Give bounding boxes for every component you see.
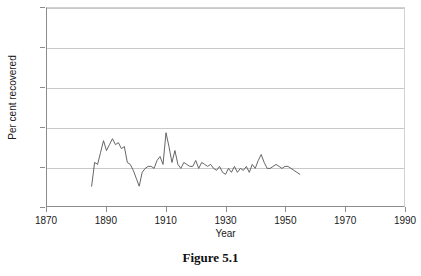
x-axis-title: Year [46,228,405,239]
y-tick-mark-80 [40,47,45,48]
y-tick-mark-40 [40,127,45,128]
series-line-percent-recovered [47,8,404,206]
x-tick-label-1990: 1990 [383,215,421,226]
y-tick-mark-20 [40,167,45,168]
x-tick-mark-1930 [226,207,227,212]
y-tick-mark-100 [40,7,45,8]
x-tick-mark-1890 [106,207,107,212]
x-tick-mark-1870 [46,207,47,212]
y-tick-mark-60 [40,87,45,88]
x-tick-label-1910: 1910 [144,215,188,226]
x-tick-mark-1970 [345,207,346,212]
x-tick-mark-1990 [405,207,406,212]
x-tick-label-1970: 1970 [323,215,367,226]
y-axis-title: Per cent recovered [7,0,18,198]
figure-caption: Figure 5.1 [0,250,421,266]
x-tick-label-1890: 1890 [84,215,128,226]
x-tick-mark-1910 [166,207,167,212]
x-tick-label-1930: 1930 [204,215,248,226]
x-tick-label-1870: 1870 [24,215,68,226]
y-tick-mark-0 [40,207,45,208]
x-tick-label-1950: 1950 [263,215,307,226]
figure-container: 020406080100 Per cent recovered 18701890… [0,0,421,276]
plot-area [46,7,405,207]
x-tick-mark-1950 [285,207,286,212]
